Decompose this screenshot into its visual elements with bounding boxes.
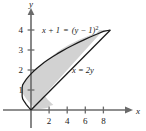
- parabola-label-exponent: 2: [95, 25, 98, 31]
- x-tick-label-8: 8: [101, 116, 106, 126]
- y-axis-label: y: [28, 0, 33, 9]
- x-axis-arrow: [125, 107, 133, 114]
- line-equation-label: x = 2y: [71, 65, 94, 75]
- parabola-label-equals: =: [63, 25, 69, 35]
- parabola-label-rhs: (y − 1): [72, 25, 96, 35]
- y-axis-arrow: [28, 8, 35, 15]
- y-tick-label-4: 4: [19, 25, 24, 35]
- x-tick-label-2: 2: [47, 116, 52, 126]
- x-tick-label-6: 6: [83, 116, 88, 126]
- plot-svg: 2 4 6 8 1 2 3 4 x y x + 1=(y − 1)2 x = 2…: [0, 0, 146, 131]
- x-axis-label: x: [135, 106, 140, 116]
- y-tick-label-2: 2: [19, 65, 24, 75]
- x-tick-label-4: 4: [65, 116, 70, 126]
- parabola-label-lhs: x + 1: [41, 25, 60, 35]
- y-tick-label-3: 3: [19, 45, 24, 55]
- figure-container: 2 4 6 8 1 2 3 4 x y x + 1=(y − 1)2 x = 2…: [0, 0, 146, 131]
- parabola-equation-label: x + 1=(y − 1)2: [41, 25, 98, 35]
